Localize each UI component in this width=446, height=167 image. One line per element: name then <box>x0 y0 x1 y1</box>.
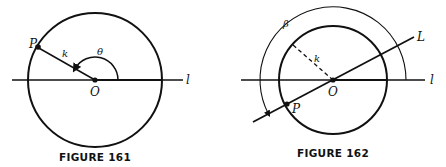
origin-o-161 <box>92 77 97 82</box>
label-o-161: O <box>90 85 100 99</box>
label-l-162: l <box>430 73 434 87</box>
point-p-162 <box>284 101 289 106</box>
figure-162: β k O P L l FIGURE 162 <box>241 7 434 159</box>
caption-figure-161: FIGURE 161 <box>59 151 131 163</box>
radius-k-dashed-162 <box>293 45 333 80</box>
label-o-162: O <box>328 85 338 99</box>
angle-theta-arc <box>75 57 118 80</box>
label-p-161: P <box>28 37 38 51</box>
label-k-161: k <box>62 48 68 59</box>
figure-161: P k θ O l FIGURE 161 <box>12 13 190 163</box>
origin-o-162 <box>330 77 335 82</box>
label-l-161: l <box>186 73 190 87</box>
label-L: L <box>416 30 425 44</box>
label-k-162: k <box>314 53 320 64</box>
label-beta: β <box>282 18 289 29</box>
label-theta: θ <box>97 46 103 57</box>
caption-figure-162: FIGURE 162 <box>297 147 369 159</box>
label-p-162: P <box>291 102 301 116</box>
figures-canvas: P k θ O l FIGURE 161 β k O P L l FIGURE … <box>0 0 446 167</box>
